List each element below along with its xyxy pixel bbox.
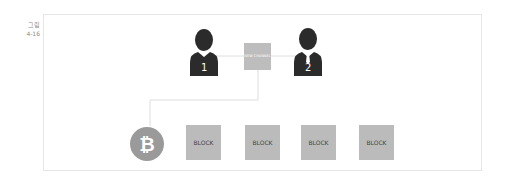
bitcoin-icon: ₿ [130,127,164,161]
block-3: BLOCK [301,125,336,160]
svg-text:₿: ₿ [139,133,154,155]
new-channel-label: NEW CHANNEL [244,54,270,59]
block-label: BLOCK [252,139,272,146]
block-label: BLOCK [193,139,213,146]
connector-channel-chain [150,70,258,126]
block-label: BLOCK [366,139,386,146]
block-label: BLOCK [308,139,328,146]
connector-lines [150,56,295,126]
person-1-number: 1 [201,62,207,73]
block-1: BLOCK [186,125,221,160]
block-4: BLOCK [359,125,394,160]
new-channel-box: NEW CHANNEL [244,43,271,70]
person-2-number: 2 [305,62,311,73]
block-2: BLOCK [245,125,280,160]
